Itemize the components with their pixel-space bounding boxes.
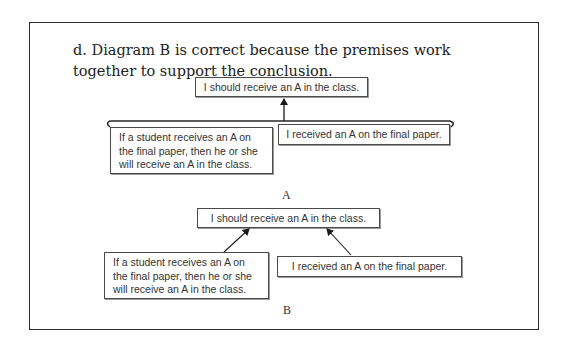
diagram-b-conclusion-text: I should receive an A in the class. <box>211 212 366 224</box>
diagram-a-premise-left-box: If a student receives an A on the final … <box>110 127 273 174</box>
diagram-b-premise-right-text: I received an A on the final paper. <box>292 260 447 272</box>
diagram-b-premise-left-text: If a student receives an A on the final … <box>113 256 252 295</box>
diagram-a-conclusion-text: I should receive an A in the class. <box>204 81 359 93</box>
diagram-a-conclusion-box: I should receive an A in the class. <box>195 77 368 97</box>
diagram-b-conclusion-box: I should receive an A in the class. <box>197 208 380 228</box>
diagram-a-premise-right-text: I received an A on the final paper. <box>286 128 441 140</box>
diagram-b-label: B <box>283 303 291 318</box>
diagram-b-premise-right-box: I received an A on the final paper. <box>277 256 462 277</box>
diagram-a-premise-left-text: If a student receives an A on the final … <box>119 131 258 170</box>
diagram-b-premise-left-box: If a student receives an A on the final … <box>104 252 269 299</box>
answer-option-d-text: d. Diagram B is correct because the prem… <box>73 40 513 82</box>
diagram-a-label: A <box>282 188 291 203</box>
diagram-a-premise-right-box: I received an A on the final paper. <box>278 124 450 145</box>
